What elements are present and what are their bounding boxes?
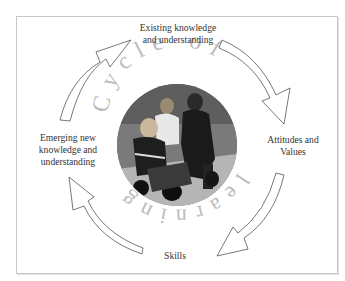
node-emerging-knowledge: Emerging new knowledge and understanding bbox=[28, 132, 108, 168]
node-skills-line-1: Skills bbox=[150, 250, 200, 262]
arrow-existing-to-attitudes bbox=[219, 40, 290, 124]
node-skills: Skills bbox=[150, 250, 200, 262]
node-attitudes-values: Attitudes and Values bbox=[258, 134, 328, 158]
node-existing-line-1: Existing knowledge bbox=[128, 22, 228, 34]
node-attitudes-line-2: Values bbox=[258, 146, 328, 158]
node-emerging-line-1: Emerging new bbox=[28, 132, 108, 144]
node-existing-knowledge: Existing knowledge and understanding bbox=[128, 22, 228, 46]
node-emerging-line-3: understanding bbox=[28, 156, 108, 168]
node-attitudes-line-1: Attitudes and bbox=[258, 134, 328, 146]
arc-title-bottom: learning bbox=[109, 170, 255, 230]
node-emerging-line-2: knowledge and bbox=[28, 144, 108, 156]
node-existing-line-2: and understanding bbox=[128, 34, 228, 46]
